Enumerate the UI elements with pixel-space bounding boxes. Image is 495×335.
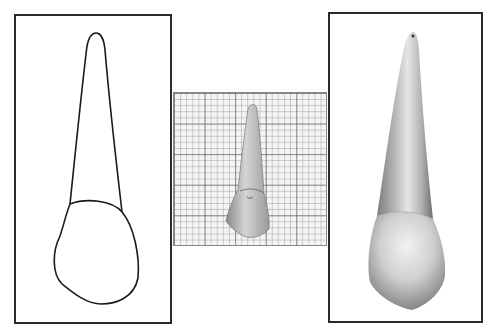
tooth-outline-drawing bbox=[16, 16, 174, 326]
tooth-shaded-drawing bbox=[330, 14, 485, 325]
graph-paper-photo-panel: Tooth photographed on graph paper bbox=[173, 92, 327, 246]
shaded-drawing-panel: Shaded illustration of tooth bbox=[328, 12, 483, 323]
tooth-photo bbox=[174, 93, 328, 247]
outline-drawing-panel: Outline drawing of tooth bbox=[14, 14, 172, 324]
